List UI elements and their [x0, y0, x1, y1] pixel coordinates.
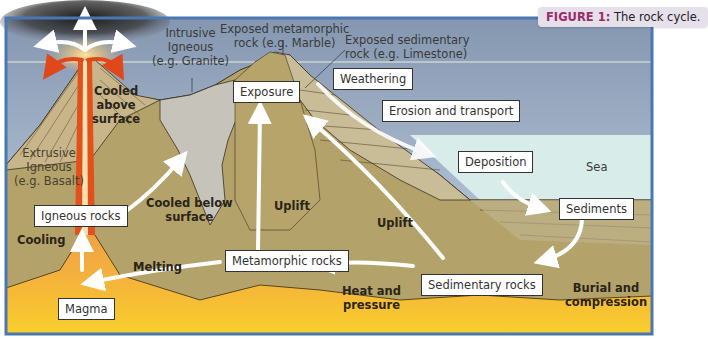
- sedimentary-line-1: Exposed sedimentary: [345, 33, 470, 47]
- sediments-box: Sediments: [559, 198, 634, 220]
- magma-box: Magma: [58, 298, 115, 320]
- burial-line-2: compression: [565, 295, 647, 309]
- melting-label: Melting: [133, 260, 182, 274]
- heat-line-1: Heat and: [342, 284, 401, 298]
- heat-and-pressure-label: Heat and pressure: [342, 284, 401, 312]
- burial-and-compression-label: Burial and compression: [565, 281, 647, 309]
- erosion-and-transport-box: Erosion and transport: [382, 100, 520, 122]
- cooled-below-surface-label: Cooled below surface: [146, 196, 233, 224]
- extrusive-line-2: Igneous: [14, 160, 84, 174]
- cooled-below-line-2: surface: [146, 210, 233, 224]
- uplift-label-1: Uplift: [274, 199, 310, 213]
- metamorphic-line-2: rock (e.g. Marble): [220, 36, 349, 50]
- cooled-above-line-3: surface: [92, 112, 140, 126]
- figure-title: The rock cycle.: [614, 10, 701, 24]
- heat-line-2: pressure: [342, 298, 401, 312]
- uplift-label-2: Uplift: [377, 216, 413, 230]
- cooled-above-surface-label: Cooled above surface: [92, 84, 140, 126]
- burial-line-1: Burial and: [565, 281, 647, 295]
- intrusive-line-1: Intrusive: [152, 26, 229, 40]
- cooled-above-line-1: Cooled: [92, 84, 140, 98]
- cooling-label: Cooling: [17, 233, 66, 247]
- cooled-above-line-2: above: [92, 98, 140, 112]
- intrusive-line-2: Igneous: [152, 40, 229, 54]
- figure-caption: FIGURE 1: The rock cycle.: [538, 7, 708, 27]
- weathering-box: Weathering: [333, 68, 413, 90]
- exposed-sedimentary-label: Exposed sedimentary rock (e.g. Limestone…: [345, 33, 470, 61]
- sedimentary-line-2: rock (e.g. Limestone): [345, 47, 470, 61]
- metamorphic-line-1: Exposed metamorphic: [220, 22, 349, 36]
- figure-number: FIGURE 1:: [546, 10, 610, 24]
- exposure-box: Exposure: [233, 81, 300, 103]
- cooled-below-line-1: Cooled below: [146, 196, 233, 210]
- sedimentary-rocks-box: Sedimentary rocks: [421, 274, 543, 296]
- sea-label: Sea: [586, 160, 607, 174]
- extrusive-line-3: (e.g. Basalt): [14, 174, 84, 188]
- deposition-box: Deposition: [458, 151, 533, 173]
- exposed-metamorphic-label: Exposed metamorphic rock (e.g. Marble): [220, 22, 349, 50]
- extrusive-line-1: Extrusive: [14, 146, 84, 160]
- intrusive-igneous-label: Intrusive Igneous (e.g. Granite): [152, 26, 229, 68]
- extrusive-igneous-label: Extrusive Igneous (e.g. Basalt): [14, 146, 84, 188]
- igneous-rocks-box: Igneous rocks: [34, 205, 128, 227]
- intrusive-line-3: (e.g. Granite): [152, 54, 229, 68]
- metamorphic-rocks-box: Metamorphic rocks: [225, 250, 349, 272]
